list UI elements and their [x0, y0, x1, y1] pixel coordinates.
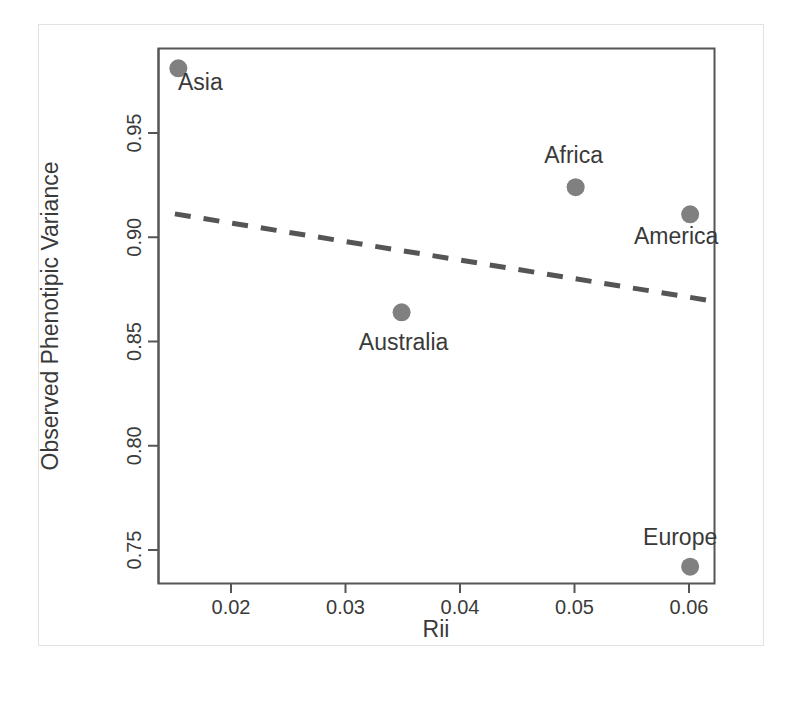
plot-panel-frame	[159, 49, 715, 584]
data-point-europe	[681, 558, 699, 576]
y-tick-label: 0.80	[123, 426, 145, 465]
data-point-labels: AsiaAfricaAmericaAustraliaEurope	[178, 69, 719, 549]
x-tick-label: 0.05	[555, 596, 594, 618]
data-label-australia: Australia	[359, 329, 449, 355]
x-tick-label: 0.04	[441, 596, 480, 618]
data-point-africa	[567, 178, 585, 196]
y-tick-label: 0.85	[123, 322, 145, 361]
x-axis-title: Rii	[423, 616, 450, 642]
data-label-america: America	[634, 223, 719, 249]
x-tick-label: 0.03	[326, 596, 365, 618]
data-label-asia: Asia	[178, 69, 223, 95]
chart-figure: 0.750.800.850.900.95 0.020.030.040.050.0…	[0, 0, 803, 701]
x-axis-ticks: 0.020.030.040.050.06	[212, 583, 709, 618]
y-tick-label: 0.75	[123, 531, 145, 570]
data-point-australia	[393, 303, 411, 321]
y-tick-label: 0.90	[123, 218, 145, 257]
scatter-plot: 0.750.800.850.900.95 0.020.030.040.050.0…	[0, 0, 803, 701]
x-tick-label: 0.06	[670, 596, 709, 618]
data-points	[169, 59, 699, 575]
x-tick-label: 0.02	[212, 596, 251, 618]
y-tick-label: 0.95	[123, 114, 145, 153]
data-label-europe: Europe	[643, 524, 717, 550]
data-label-africa: Africa	[544, 142, 603, 168]
data-point-america	[681, 205, 699, 223]
y-axis-title: Observed Phenotipic Variance	[37, 162, 63, 471]
y-axis-ticks: 0.750.800.850.900.95	[123, 114, 158, 570]
